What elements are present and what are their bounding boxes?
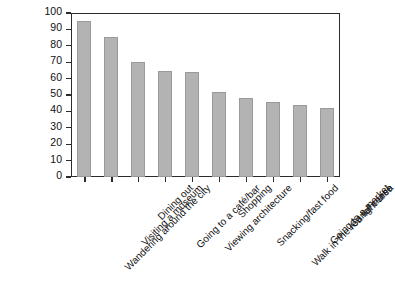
- bar[interactable]: [77, 21, 91, 177]
- y-axis-tick-label: 30: [50, 121, 62, 132]
- x-axis-tick-mark: [273, 177, 274, 182]
- x-axis-tick-mark: [327, 177, 328, 182]
- bar-slot: [212, 13, 226, 177]
- bar[interactable]: [158, 71, 172, 177]
- y-axis-tick-label: 60: [50, 72, 62, 83]
- y-axis-tick-label: 10: [50, 154, 62, 165]
- bar[interactable]: [131, 62, 145, 177]
- x-axis-tick-mark: [192, 177, 193, 182]
- bar-slot: [131, 13, 145, 177]
- bar-slot: [158, 13, 172, 177]
- bars-group: [71, 13, 340, 177]
- x-axis-tick-mark: [300, 177, 301, 182]
- x-axis-labels-group: Wandering around the cityVisiting a muse…: [0, 183, 355, 290]
- x-axis-tick-mark: [111, 177, 112, 182]
- y-axis-tick-label: 50: [50, 88, 62, 99]
- x-axis-tick-mark: [246, 177, 247, 182]
- bar-slot: [320, 13, 334, 177]
- bar-slot: [239, 13, 253, 177]
- x-axis-tick-mark: [84, 177, 85, 182]
- x-axis-tick-label: Visiting a museum: [140, 183, 205, 248]
- y-axis-tick-label: 20: [50, 137, 62, 148]
- y-axis-tick-label: 40: [50, 104, 62, 115]
- bar[interactable]: [320, 108, 334, 177]
- bar-slot: [185, 13, 199, 177]
- bar-slot: [77, 13, 91, 177]
- bar[interactable]: [212, 92, 226, 177]
- y-axis: 0102030405060708090100: [30, 13, 71, 177]
- bar[interactable]: [266, 102, 280, 177]
- bar[interactable]: [293, 105, 307, 177]
- y-axis-tick-label: 100: [44, 6, 62, 17]
- bar-slot: [266, 13, 280, 177]
- y-axis-tick-label: 90: [50, 22, 62, 33]
- y-axis-tick-label: 0: [56, 170, 62, 181]
- bar-slot: [293, 13, 307, 177]
- x-axis-tick-label: Canal cruise: [348, 183, 394, 229]
- x-axis-tick-mark: [219, 177, 220, 182]
- bar-slot: [104, 13, 118, 177]
- bar[interactable]: [239, 98, 253, 177]
- x-axis-tick-label: Wandering around the city: [124, 183, 213, 272]
- x-axis-tick-mark: [138, 177, 139, 182]
- bar[interactable]: [104, 37, 118, 177]
- x-axis-tick-mark: [165, 177, 166, 182]
- bar[interactable]: [185, 72, 199, 177]
- y-axis-tick-label: 80: [50, 39, 62, 50]
- y-axis-tick-label: 70: [50, 55, 62, 66]
